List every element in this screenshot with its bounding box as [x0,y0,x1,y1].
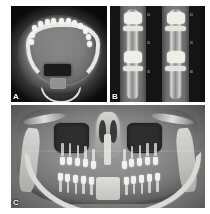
maxillary-tooth-root [92,149,95,160]
mandibular-tooth-root [67,182,70,192]
mandibular-tooth-root [148,182,151,192]
panel-c-coronal[interactable]: C [11,105,205,208]
panel-c-label: C [13,199,19,207]
maxillary-tooth-root [84,146,87,158]
panel-a-axial[interactable]: A [11,6,107,102]
maxillary-tooth-crown [75,158,80,166]
maxillary-tooth-root [154,143,157,156]
slice-tick-label: 10 [190,14,193,17]
alveolar-ridge [123,66,143,71]
maxillary-tooth-crown [129,159,134,167]
panel-a-label: A [13,93,19,101]
maxillary-tooth-crown [122,161,127,169]
cross-section-gap-strip [189,6,200,102]
mandibular-tooth-crown [89,177,94,185]
maxillary-tooth-crown [91,161,96,169]
maxillary-tooth-root [61,143,64,156]
nasal-airspace-right [110,120,117,143]
mandibular-tooth-crown [73,175,78,183]
maxillary-tooth-root [146,143,149,156]
tooth-crown [167,51,185,63]
oropharyngeal-airway [44,64,71,76]
cross-section-slice[interactable] [162,6,189,102]
mandibular-tooth-root [133,184,136,193]
maxillary-tooth-root [139,145,142,157]
mandibular-tooth-root [75,183,78,193]
maxillary-tooth-crown [83,159,88,167]
cross-section-gap-strip [110,6,120,102]
mandibular-tooth-root [59,181,62,191]
cross-section-gap-strip [146,6,162,102]
slice-tick-label: 10 [147,14,150,17]
mandibular-tooth-crown [81,176,86,184]
tooth [86,34,91,40]
slice-tick-label: 20 [190,42,193,45]
maxillary-tooth-root [69,143,72,156]
maxillary-tooth-crown [67,157,72,165]
tooth [29,39,34,45]
mandibular-tooth-crown [139,175,144,183]
alveolar-ridge [165,26,185,31]
mandibular-tooth-root [141,183,144,193]
alveolar-ridge [165,66,185,71]
tooth [87,41,92,47]
alveolar-ridge [123,26,143,31]
maxillary-tooth-crown [145,157,150,165]
maxillary-tooth-crown [137,158,142,166]
mandibular-tooth-crown [155,173,160,181]
tooth-crown [167,12,185,24]
mandibular-tooth-root [125,185,128,194]
tooth-crown [124,12,142,24]
mandibular-symphysis [96,177,119,200]
radiograph-figure: A 102030102030 B C [0,0,210,214]
slice-tick-label: 30 [190,71,193,74]
mandibular-tooth-crown [124,177,129,185]
tooth-crown [124,51,142,63]
mandibular-tooth-root [156,181,159,191]
cross-section-slice[interactable] [120,6,147,102]
maxillary-tooth-crown [153,157,158,165]
maxillary-tooth-root [123,149,126,160]
maxillary-sinus-left [54,123,89,154]
mandibular-tooth-crown [147,174,152,182]
slice-tick-label: 30 [147,71,150,74]
mandibular-tooth-root [90,185,93,194]
mandibular-tooth-root [82,184,85,193]
panel-b-label: B [112,93,118,101]
maxillary-tooth-crown [60,157,65,165]
panel-b-cross-sections[interactable]: 102030102030 B [110,6,205,102]
slice-tick-label: 20 [147,42,150,45]
maxillary-tooth-root [77,145,80,157]
mandibular-tooth-crown [58,173,63,181]
